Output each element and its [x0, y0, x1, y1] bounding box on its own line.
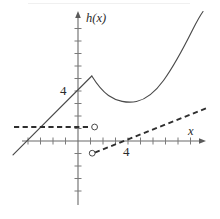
- y-axis-label: h(x): [86, 12, 106, 25]
- x-tick-label-4: 4: [123, 145, 130, 158]
- curve-right-parabolic-branch: [92, 12, 203, 103]
- x-axis-arrowhead: [199, 138, 206, 144]
- function-graph-figure: h(x) x 4 4: [0, 0, 220, 219]
- open-circle-rising-start: [89, 150, 95, 156]
- graph-canvas: [0, 0, 220, 219]
- axes-group: [22, 11, 206, 205]
- y-axis-arrowhead: [75, 11, 81, 18]
- y-tick-label-4: 4: [60, 84, 67, 97]
- open-circle-horizontal-endpoint: [92, 124, 98, 130]
- curve-left-linear-branch: [13, 76, 92, 155]
- x-axis-label: x: [188, 125, 194, 138]
